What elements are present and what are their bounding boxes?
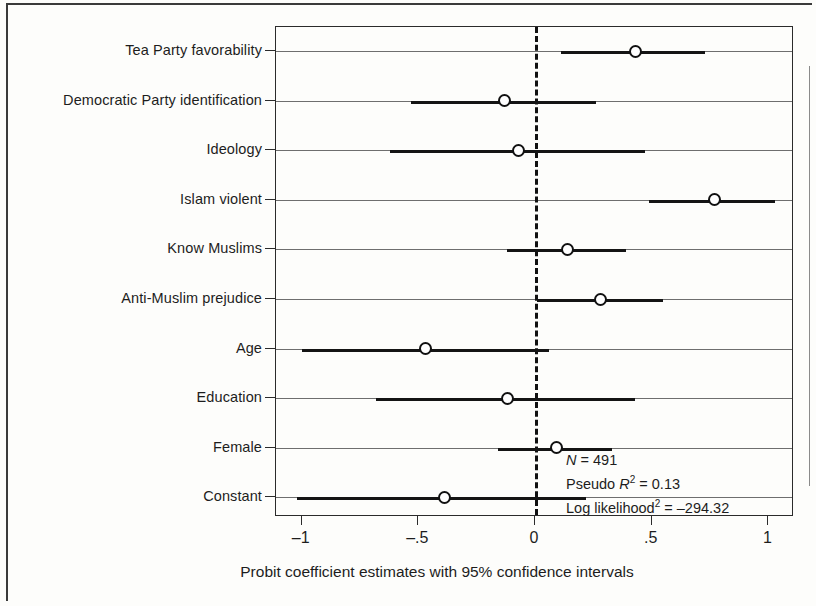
y-axis-tick <box>265 496 275 497</box>
stat-loglik: Log likelihood2 = –294.32 <box>566 494 729 518</box>
estimate-marker <box>498 94 511 107</box>
estimate-marker <box>512 144 525 157</box>
y-axis-tick <box>265 149 275 150</box>
stat-pseudo-r2-sup: 2 <box>630 474 636 485</box>
y-axis-label: Constant <box>203 488 262 504</box>
estimate-marker <box>629 45 642 58</box>
x-axis-title: Probit coefficient estimates with 95% co… <box>0 563 816 581</box>
x-axis-tick-label: 1 <box>763 529 772 547</box>
y-axis-tick <box>265 447 275 448</box>
x-axis-tick <box>534 516 535 525</box>
plot-area <box>275 26 793 516</box>
x-axis-tick <box>767 516 768 525</box>
stat-n: N = 491 <box>566 450 729 470</box>
y-axis-label: Age <box>236 340 262 356</box>
estimate-marker <box>594 293 607 306</box>
estimate-marker <box>550 441 563 454</box>
estimate-marker <box>501 392 514 405</box>
y-axis-tick <box>265 100 275 101</box>
x-axis-title-text: Probit coefficient estimates with 95% co… <box>240 563 633 581</box>
stat-n-label: N <box>566 452 576 468</box>
y-axis-tick <box>265 199 275 200</box>
y-axis-label: Democratic Party identification <box>63 92 262 108</box>
y-axis-tick <box>265 50 275 51</box>
y-axis-label: Islam violent <box>180 191 262 207</box>
y-axis-tick <box>265 348 275 349</box>
stat-pseudo-r2: Pseudo R2 = 0.13 <box>566 470 729 494</box>
stat-loglik-value: = –294.32 <box>664 500 729 516</box>
y-axis-tick <box>265 298 275 299</box>
estimate-marker <box>438 491 451 504</box>
stat-pseudo-r2-label: Pseudo R2 <box>566 476 635 492</box>
stat-n-value: = 491 <box>581 452 618 468</box>
y-axis-label: Female <box>213 439 262 455</box>
y-axis-label: Ideology <box>206 141 262 157</box>
y-axis-tick <box>265 397 275 398</box>
gridline <box>276 299 792 300</box>
y-axis-label: Tea Party favorability <box>125 42 262 58</box>
y-axis-label: Education <box>197 389 262 405</box>
x-axis-tick <box>417 516 418 525</box>
stat-loglik-sup: 2 <box>655 498 661 509</box>
stat-loglik-label: Log likelihood <box>566 500 655 516</box>
model-statistics: N = 491 Pseudo R2 = 0.13 Log likelihood2… <box>566 450 729 518</box>
figure-canvas: Tea Party favorabilityDemocratic Party i… <box>0 0 816 606</box>
gridline <box>276 51 792 52</box>
x-axis-tick-label: –1 <box>292 529 310 547</box>
x-axis-tick-label: –.5 <box>406 529 428 547</box>
x-axis-tick-label: .5 <box>644 529 657 547</box>
estimate-marker <box>708 193 721 206</box>
y-axis-label: Anti-Muslim prejudice <box>121 290 262 306</box>
estimate-marker <box>419 342 432 355</box>
page-border-right <box>806 66 810 486</box>
x-axis-tick-label: 0 <box>530 529 539 547</box>
y-axis-labels: Tea Party favorabilityDemocratic Party i… <box>0 26 262 516</box>
stat-pseudo-r2-value: = 0.13 <box>639 476 680 492</box>
y-axis-label: Know Muslims <box>167 240 262 256</box>
x-axis-tick <box>301 516 302 525</box>
y-axis-tick <box>265 248 275 249</box>
estimate-marker <box>561 243 574 256</box>
